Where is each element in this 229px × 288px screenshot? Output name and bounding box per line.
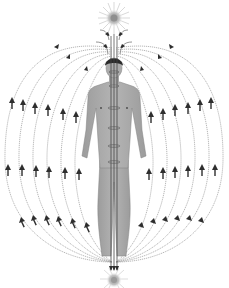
up-arrow-icons-left xyxy=(5,44,90,232)
feet-arrow-icons xyxy=(109,266,119,271)
energy-field-diagram xyxy=(0,0,229,288)
diagram-canvas xyxy=(0,0,229,288)
field-lines-right xyxy=(116,46,223,262)
field-lines-left xyxy=(5,46,112,262)
up-arrow-icons-right xyxy=(138,44,218,228)
top-sun-burst-icon xyxy=(98,2,130,34)
